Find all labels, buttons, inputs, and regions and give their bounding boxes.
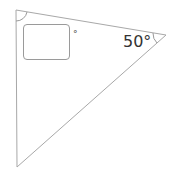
degree-unit-label: ° (73, 29, 78, 39)
right-angle-arc (153, 33, 157, 43)
angle-answer-input[interactable] (23, 24, 70, 60)
known-angle-label: 50° (123, 34, 151, 50)
top-left-angle-arc (16, 12, 27, 21)
